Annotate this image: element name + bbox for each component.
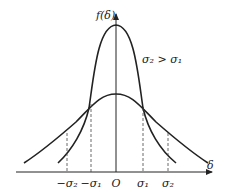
y-axis-label: f(δ) bbox=[95, 9, 115, 22]
tick-origin: O bbox=[111, 177, 120, 190]
tick-neg-sigma1: −σ₁ bbox=[80, 177, 101, 190]
tick-sigma2: σ₂ bbox=[162, 177, 174, 190]
x-axis-label: δ bbox=[207, 159, 214, 172]
tick-neg-sigma2: −σ₂ bbox=[56, 177, 77, 190]
distribution-diagram: f(δ) δ σ₂ > σ₁ −σ₂ −σ₁ O σ₁ σ₂ bbox=[0, 0, 229, 196]
tick-sigma1: σ₁ bbox=[137, 177, 149, 190]
relation-label: σ₂ > σ₁ bbox=[142, 53, 182, 66]
